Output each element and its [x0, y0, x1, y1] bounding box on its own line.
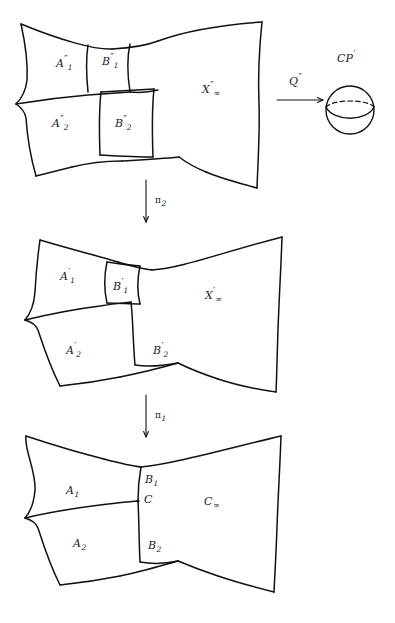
region-label-A1: A1: [66, 485, 79, 496]
region-label-A2-prime: A′2: [66, 345, 81, 356]
region-label-B1-prime: B′1: [113, 281, 128, 292]
region-label-A1-prime: A′1: [60, 271, 75, 282]
map-label-pi2: π2: [155, 195, 166, 205]
map-label-pi1: π1: [155, 410, 166, 420]
middle-panel-outline: [25, 237, 282, 392]
region-label-B2-doubleprime: B″2: [115, 118, 131, 129]
map-label-Q-doubleprime: Q″: [289, 76, 301, 87]
region-label-A2-doubleprime: A″2: [52, 118, 68, 129]
region-label-B2-prime: B′2: [153, 345, 168, 356]
arrow-pi2: [144, 180, 149, 222]
region-label-B2: B2: [148, 540, 161, 551]
region-label-A2: A2: [73, 538, 86, 549]
arrow-pi1: [144, 395, 149, 437]
region-label-B1-doubleprime: B″1: [102, 56, 118, 67]
top-panel-outline: [16, 22, 262, 188]
point-label-C: C: [144, 494, 153, 505]
bottom-panel-outline: [25, 436, 281, 592]
sphere-CP: [326, 86, 374, 134]
figure-canvas: A″1 B″1 A″2 B″2 X″∞ Q″ CP′ π2 A′1 B′1 A′…: [0, 0, 395, 623]
diagram-linework: [0, 0, 395, 623]
target-label-CP-prime: CP′: [337, 53, 355, 64]
region-label-X-infinity-prime: X′∞: [205, 290, 222, 301]
region-label-C-infinity: C∞: [204, 496, 220, 507]
arrow-Q: [277, 98, 323, 103]
top-panel-interior-curves: [16, 44, 158, 157]
region-label-B1: B1: [145, 474, 158, 485]
region-label-X-infinity-doubleprime: X″∞: [202, 84, 220, 95]
region-label-A1-doubleprime: A″1: [56, 58, 72, 69]
